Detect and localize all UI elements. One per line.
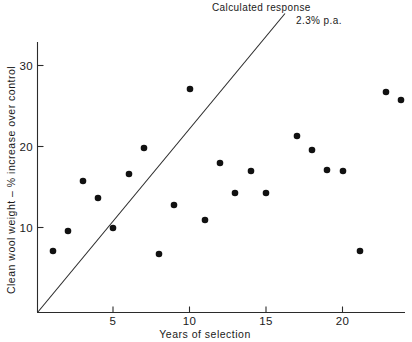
y-tick-label-10: 10 [19,222,33,234]
data-point [65,228,72,235]
y-axis-ticks [38,66,44,228]
data-point [95,195,102,202]
data-point [309,147,316,154]
x-tick-label-15: 15 [259,315,273,327]
data-point [156,251,163,258]
scatter-chart-figure: 30 20 10 5 10 15 20 Years of selection C… [0,0,412,342]
chart-svg: 30 20 10 5 10 15 20 Years of selection C… [0,0,412,342]
data-point [50,248,57,255]
x-axis-title: Years of selection [159,328,251,340]
data-point [294,133,301,140]
data-point [232,190,239,197]
data-point [110,225,117,232]
data-point [248,168,255,175]
data-point [263,190,270,197]
y-tick-label-30: 30 [19,60,33,72]
data-point [398,97,405,104]
scatter-points [50,86,405,258]
y-axis-title: Clean wool weight – % increase over cont… [5,66,17,294]
x-tick-label-5: 5 [110,315,117,327]
data-point [324,167,331,174]
data-point [217,160,224,167]
data-point [340,168,347,175]
trend-label-line1: Calculated response [212,2,311,13]
data-point [80,178,87,185]
y-tick-label-20: 20 [19,141,33,153]
calculated-response-line [38,14,286,313]
data-point [141,145,148,152]
data-point [357,248,364,255]
x-tick-label-20: 20 [336,315,350,327]
x-tick-label-10: 10 [183,315,197,327]
data-point [187,86,194,93]
data-point [171,202,178,209]
x-axis-ticks [113,307,343,313]
data-point [383,89,390,96]
trend-label-line2: 2.3% p.a. [296,15,342,26]
data-point [126,171,133,178]
data-point [202,217,209,224]
